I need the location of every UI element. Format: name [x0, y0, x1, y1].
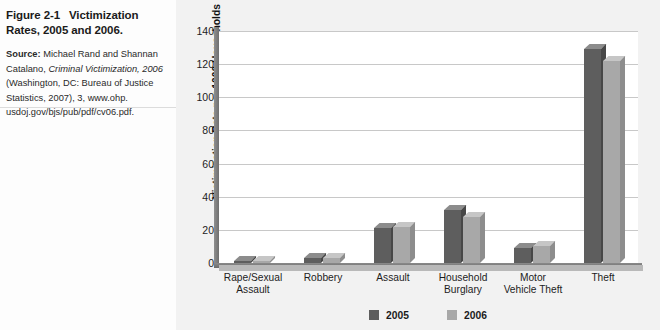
y-axis-tick-label: 100: [180, 91, 214, 103]
page-root: Figure 2-1Victimization Rates, 2005 and …: [0, 0, 660, 330]
bar-group: [428, 31, 498, 263]
bar-side-face: [480, 212, 485, 263]
chart-figure: Victimization Rate per 1000 Households 0…: [176, 0, 660, 330]
source-publication-title: Criminal Victimization, 2006: [48, 64, 163, 74]
y-axis-tick-label: 60: [180, 158, 214, 170]
legend-item-2006[interactable]: 2006: [447, 310, 487, 321]
bar-2006: [463, 217, 480, 263]
legend-swatch: [369, 310, 379, 320]
figure-source-note: Source: Michael Rand and Shannan Catalan…: [6, 47, 174, 120]
bar-group: [288, 31, 358, 263]
bar-front-face: [603, 61, 620, 263]
source-line-1: Michael Rand and Shannan: [43, 49, 158, 59]
source-line-4: Statistics, 2007), 3, www.ohp.: [6, 93, 128, 103]
legend-label: 2005: [386, 310, 409, 321]
y-axis-tick-label: 20: [180, 224, 214, 236]
chart-panel: Victimization Rate per 1000 Households 0…: [176, 0, 660, 330]
bar-group: [218, 31, 288, 263]
figure-caption-block: Figure 2-1Victimization Rates, 2005 and …: [6, 8, 174, 120]
source-line-3: (Washington, DC: Bureau of Justice: [6, 78, 153, 88]
bar-2005: [374, 228, 391, 263]
legend-label: 2006: [464, 310, 487, 321]
bar-front-face: [584, 49, 601, 263]
chart-legend: 20052006: [218, 306, 638, 324]
x-axis-category-labels: Rape/SexualAssaultRobberyAssaultHousehol…: [218, 272, 638, 306]
bar-group: [358, 31, 428, 263]
bar-front-face: [463, 217, 480, 263]
x-axis-label-line: Assault: [204, 284, 302, 296]
bar-2006: [533, 246, 550, 263]
x-axis-baseline-face: [219, 265, 643, 271]
y-axis-tick-label: 40: [180, 191, 214, 203]
y-axis-tick-label: 80: [180, 124, 214, 136]
y-axis-line: [214, 27, 219, 267]
source-label: Source:: [6, 49, 41, 59]
y-axis-tick-labels: 020406080100120140: [176, 31, 214, 263]
bar-front-face: [374, 228, 391, 263]
plot-area: [218, 31, 638, 263]
bar-front-face: [533, 246, 550, 263]
y-axis-tick-label: 0: [180, 257, 214, 269]
bar-2005: [584, 49, 601, 263]
bar-2005: [514, 248, 531, 263]
bar-front-face: [393, 227, 410, 263]
bar-front-face: [514, 248, 531, 263]
bar-2005: [444, 210, 461, 263]
bar-2006: [393, 227, 410, 263]
legend-item-2005[interactable]: 2005: [369, 310, 409, 321]
source-line-5: usdoj.gov/bjs/pub/pdf/cv06.pdf.: [6, 107, 134, 117]
figure-title: Figure 2-1Victimization Rates, 2005 and …: [6, 8, 174, 38]
x-axis-label-line: Vehicle Theft: [484, 284, 582, 296]
bar-2006: [603, 61, 620, 263]
source-line-2-pre: Catalano,: [6, 64, 48, 74]
bar-side-face: [620, 56, 625, 263]
y-axis-tick-label: 120: [180, 58, 214, 70]
x-axis-label: Theft: [554, 272, 652, 284]
bar-front-face: [444, 210, 461, 263]
bar-group: [498, 31, 568, 263]
x-axis-label-line: Theft: [554, 272, 652, 284]
y-axis-tick-label: 140: [180, 25, 214, 37]
bar-side-face: [550, 241, 555, 263]
bar-side-face: [410, 222, 415, 263]
figure-number: Figure 2-1: [6, 9, 60, 21]
legend-swatch: [447, 310, 457, 320]
bar-group: [568, 31, 638, 263]
